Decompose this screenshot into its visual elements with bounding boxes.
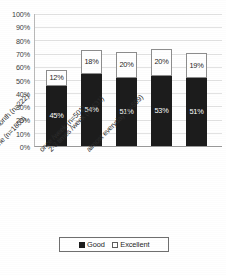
- legend-item-good[interactable]: Good: [79, 241, 105, 249]
- bar-segment-excellent[interactable]: 20%: [116, 52, 137, 79]
- bar-value-label: 19%: [189, 62, 203, 70]
- x-axis: None (n=1803) 1-2 times /month (n=222) o…: [0, 148, 226, 226]
- y-axis-tick: 70%: [2, 51, 30, 58]
- bar-segment-good[interactable]: 51%: [186, 78, 207, 146]
- bar-group[interactable]: 20% 53%: [151, 49, 172, 146]
- bar-value-label: 45%: [49, 112, 63, 120]
- bar-value-label: 20%: [119, 61, 133, 69]
- y-axis-tick: 100%: [2, 11, 30, 18]
- bar-segment-excellent[interactable]: 12%: [46, 70, 67, 86]
- filled-square-icon: [79, 242, 85, 248]
- bar-value-label: 53%: [154, 107, 168, 115]
- bar-value-label: 18%: [84, 58, 98, 66]
- chart-legend: Good Excellent: [59, 237, 169, 252]
- outlined-square-icon: [112, 242, 118, 248]
- legend-label: Good: [87, 241, 105, 249]
- bar-segment-excellent[interactable]: 20%: [151, 49, 172, 76]
- y-axis-tick: 60%: [2, 64, 30, 71]
- bar-segment-good[interactable]: 53%: [151, 76, 172, 146]
- bar-segment-excellent[interactable]: 18%: [81, 50, 102, 74]
- bar-value-label: 20%: [154, 58, 168, 66]
- y-axis-tick: 90%: [2, 24, 30, 31]
- bar-segment-excellent[interactable]: 19%: [186, 53, 207, 78]
- y-axis-tick: 50%: [2, 78, 30, 85]
- bar-value-label: 12%: [49, 74, 63, 82]
- legend-item-excellent[interactable]: Excellent: [112, 241, 150, 249]
- legend-label: Excellent: [120, 241, 149, 249]
- bar-value-label: 51%: [189, 108, 203, 116]
- y-axis-tick: 80%: [2, 38, 30, 45]
- stacked-bar-chart: 100% 90% 80% 70% 60% 50% 40% 30% 20% 10%…: [0, 0, 226, 275]
- bar-group[interactable]: 19% 51%: [186, 53, 207, 146]
